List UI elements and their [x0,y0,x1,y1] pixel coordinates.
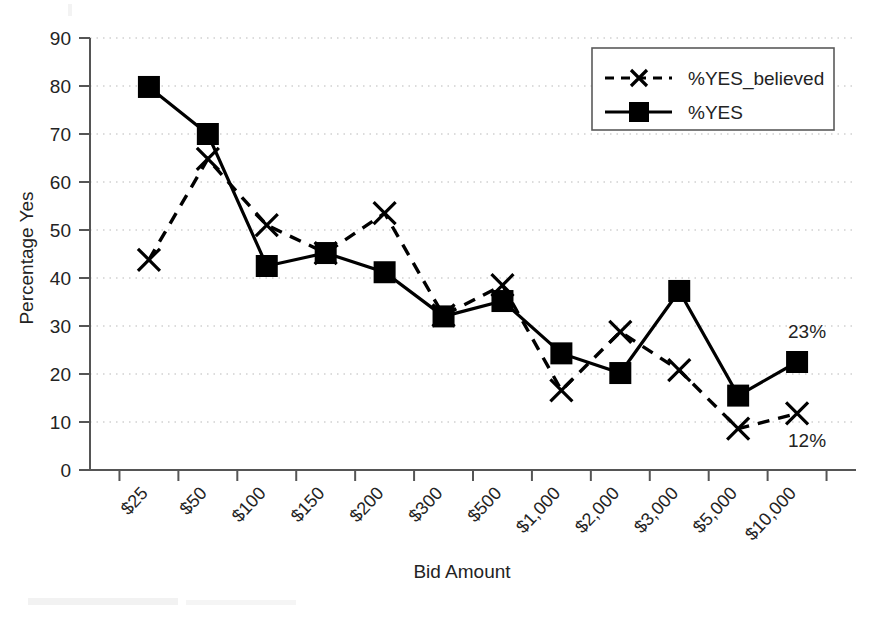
y-tick-label: 0 [60,460,71,481]
legend-square-marker-icon [629,102,649,122]
scan-artifact-top [68,4,72,16]
y-tick-label: 70 [50,124,71,145]
data-point-marker [315,242,337,264]
data-point-marker [609,362,631,384]
y-tick-label: 90 [50,28,71,49]
data-point-marker [433,305,455,327]
data-point-marker [786,351,808,373]
data-point-marker [491,290,513,312]
data-point-marker [138,76,160,98]
data-point-marker [668,280,690,302]
y-tick-label: 10 [50,412,71,433]
scan-artifact-bottom-mid [186,600,296,605]
chart-legend[interactable]: %YES_believed %YES [592,48,834,130]
x-axis-title: Bid Amount [413,561,511,582]
data-label-12pct: 12% [788,430,826,451]
scan-artifact-bottom-left [28,598,178,605]
y-tick-label: 50 [50,220,71,241]
data-point-marker [197,123,219,145]
data-point-marker [550,342,572,364]
percentage-yes-by-bid-amount-chart: 0102030405060708090 $25$50$100$150$200$3… [0,0,869,620]
chart-container: 0102030405060708090 $25$50$100$150$200$3… [0,0,869,620]
data-point-marker [256,255,278,277]
y-axis-title: Percentage Yes [16,191,37,324]
y-tick-label: 80 [50,76,71,97]
y-tick-label: 40 [50,268,71,289]
data-point-marker [374,261,396,283]
y-tick-label: 30 [50,316,71,337]
legend-label-yes: %YES [688,102,743,123]
legend-label-yes-believed: %YES_believed [688,68,824,90]
data-label-23pct: 23% [788,321,826,342]
data-point-marker [727,385,749,407]
y-tick-label: 20 [50,364,71,385]
y-tick-label: 60 [50,172,71,193]
